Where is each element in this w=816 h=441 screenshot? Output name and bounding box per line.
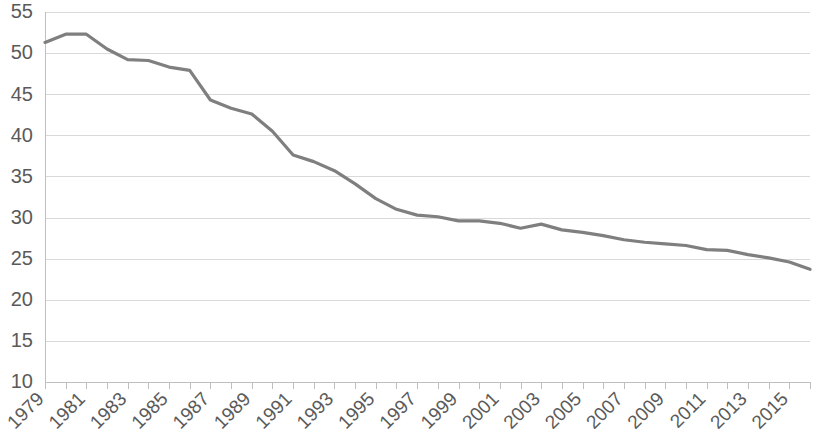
x-tick-label: 2009 <box>623 388 668 433</box>
x-axis-tick-labels: 1979198119831985198719891991199319951997… <box>3 388 792 433</box>
y-tick-label: 25 <box>11 247 33 269</box>
x-tick-label: 2011 <box>666 388 710 432</box>
y-tick-label: 45 <box>11 83 33 105</box>
axes <box>45 12 810 383</box>
x-tick-label: 1985 <box>127 388 172 433</box>
y-tick-label: 30 <box>11 206 33 228</box>
line-chart: 10152025303540455055 1979198119831985198… <box>0 0 816 441</box>
x-tick-label: 1995 <box>334 388 379 433</box>
y-tick-label: 15 <box>11 329 33 351</box>
x-tick-label: 1991 <box>251 388 296 433</box>
x-tick-label: 1983 <box>86 388 131 433</box>
x-tick-label: 1979 <box>3 388 48 433</box>
gridlines <box>45 13 810 342</box>
y-tick-label: 20 <box>11 288 33 310</box>
x-tick-label: 2005 <box>541 388 586 433</box>
x-tick-label: 2001 <box>458 388 503 433</box>
x-tick-label: 1981 <box>44 388 89 433</box>
series-line-0 <box>45 34 810 269</box>
y-tick-label: 55 <box>11 0 33 22</box>
x-tick-label: 1989 <box>210 388 255 433</box>
x-tick-label: 2013 <box>706 388 751 433</box>
y-tick-label: 40 <box>11 124 33 146</box>
y-tick-label: 35 <box>11 165 33 187</box>
y-axis-tick-labels: 10152025303540455055 <box>11 0 33 392</box>
y-tick-label: 10 <box>11 370 33 392</box>
x-tick-label: 2007 <box>582 388 627 433</box>
y-tick-label: 50 <box>11 41 33 63</box>
chart-container: 10152025303540455055 1979198119831985198… <box>0 0 816 441</box>
data-series <box>45 34 810 269</box>
x-tick-label: 2003 <box>499 388 544 433</box>
x-tick-label: 1993 <box>293 388 338 433</box>
x-tick-label: 1999 <box>417 388 462 433</box>
x-tick-label: 2015 <box>747 388 792 433</box>
x-tick-label: 1997 <box>375 388 420 433</box>
x-tick-label: 1987 <box>168 388 213 433</box>
